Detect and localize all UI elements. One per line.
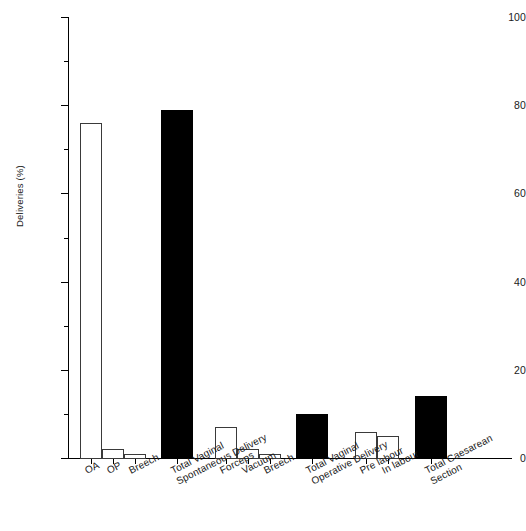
y-tick-minor <box>64 149 68 150</box>
x-label-1: OP <box>105 459 123 476</box>
y-tick-major <box>61 370 68 371</box>
bar-7 <box>296 414 328 459</box>
bar-0 <box>80 123 102 459</box>
x-label-line1: OA <box>83 459 101 475</box>
y-axis-line <box>68 17 69 459</box>
y-tick-minor <box>64 61 68 62</box>
y-tick-minor <box>64 414 68 415</box>
bar-10 <box>415 396 447 459</box>
y-tick-label: 20 <box>470 365 526 376</box>
y-tick-major <box>61 282 68 283</box>
y-tick-minor <box>64 326 68 327</box>
chart-figure: Deliveries (%) 020406080100 OAOPBreechTo… <box>0 0 526 531</box>
y-tick-minor <box>64 238 68 239</box>
y-tick-label: 60 <box>470 188 526 199</box>
y-tick-major <box>61 17 68 18</box>
y-tick-label: 100 <box>470 12 526 23</box>
plot-area: Deliveries (%) 020406080100 OAOPBreechTo… <box>0 0 526 531</box>
x-label-line1: OP <box>105 459 123 475</box>
bar-1 <box>102 449 124 459</box>
bar-3 <box>161 110 193 459</box>
y-tick-major <box>61 105 68 106</box>
y-tick-label: 80 <box>470 100 526 111</box>
y-tick-major <box>61 458 68 459</box>
y-axis-title-text: Deliveries (%) <box>14 106 25 286</box>
y-tick-label: 40 <box>470 277 526 288</box>
x-label-0: OA <box>83 459 101 476</box>
y-tick-major <box>61 193 68 194</box>
